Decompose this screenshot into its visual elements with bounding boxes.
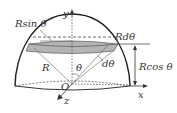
theta-arc <box>72 74 79 76</box>
label-x-axis: x <box>138 89 144 100</box>
label-origin: O <box>61 81 69 92</box>
hemisphere-diagram: Rsin θ y Rdθ Rcos θ R θ dθ O x z <box>0 0 177 113</box>
y-axis-arrow <box>70 9 74 14</box>
base-ellipse-front <box>15 86 130 90</box>
r-cos-arrow-bottom <box>133 81 137 86</box>
label-z-axis: z <box>63 95 70 106</box>
label-theta: θ <box>76 62 82 73</box>
x-axis-arrow <box>143 84 148 88</box>
label-y-axis: y <box>62 8 69 19</box>
label-r-cos-theta: Rcos θ <box>138 61 172 72</box>
label-radius: R <box>41 62 50 73</box>
label-r-sin-theta: Rsin θ <box>14 18 47 29</box>
x-axis-dotted <box>72 84 130 85</box>
label-r-dtheta: Rdθ <box>114 31 135 42</box>
r-sin-theta-leader <box>40 30 52 41</box>
label-dtheta: dθ <box>102 58 114 69</box>
r-cos-arrow-top <box>133 45 137 50</box>
